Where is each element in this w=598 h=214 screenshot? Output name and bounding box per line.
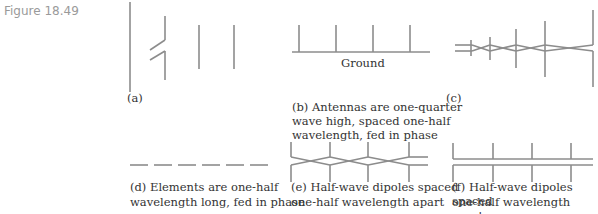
- panel-d-caption-line1: (d) Elements are one-half: [130, 180, 278, 194]
- panel-e-crossed-feed-dipoles: [291, 142, 428, 182]
- panel-f-caption-line2: one-half wavelength apart: [452, 195, 598, 214]
- panel-b-caption-line2: wave high, spaced one-half: [292, 114, 450, 128]
- panel-e-caption-line2: one-half wavelength apart: [291, 195, 444, 209]
- panel-a-yagi-antenna: [130, 2, 234, 92]
- panel-b-caption-line1: (b) Antennas are one-quarter: [292, 100, 462, 114]
- panel-c-log-periodic-array: [455, 10, 593, 87]
- panel-f-parallel-feed-dipoles: [453, 143, 593, 182]
- ground-label: Ground: [341, 56, 385, 70]
- panel-b-caption-line3: wavelength, fed in phase: [292, 128, 438, 142]
- panel-a-label: (a): [127, 91, 143, 105]
- panel-d-caption-line2: wavelength long, fed in phase: [130, 195, 305, 209]
- panel-e-caption-line1: (e) Half-wave dipoles spaced: [291, 180, 458, 194]
- panel-b-quarter-wave-array: [292, 25, 430, 52]
- panel-c-label: (c): [446, 91, 461, 105]
